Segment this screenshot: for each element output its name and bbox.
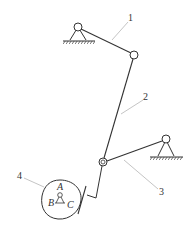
label-link-2: 2 bbox=[143, 91, 148, 102]
label-link-1: 1 bbox=[128, 12, 133, 23]
leader-2 bbox=[121, 100, 143, 114]
joint-1-2 bbox=[130, 51, 138, 59]
joint-lower bbox=[99, 158, 107, 166]
mechanism-diagram: 1 2 3 4 A B C bbox=[0, 0, 195, 235]
label-cam-4: 4 bbox=[17, 170, 22, 181]
link-2 bbox=[104, 59, 133, 158]
follower-rod bbox=[87, 166, 102, 198]
label-point-c: C bbox=[67, 199, 74, 210]
label-link-3: 3 bbox=[159, 186, 164, 197]
label-point-b: B bbox=[48, 197, 54, 208]
label-point-a: A bbox=[56, 181, 64, 192]
leader-4 bbox=[24, 178, 44, 187]
cam-pivot bbox=[55, 193, 65, 203]
leader-1 bbox=[112, 22, 128, 40]
leader-3 bbox=[124, 160, 158, 189]
fixed-pivot-right bbox=[150, 135, 183, 160]
